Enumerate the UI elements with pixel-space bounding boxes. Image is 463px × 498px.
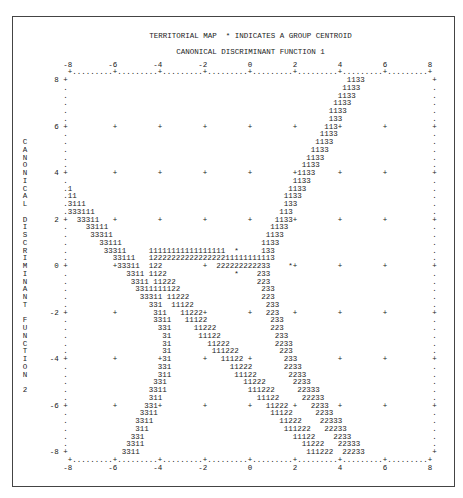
territorial-map: -8 -6 -4 -2 0 2 4 6 8 +.........+.......… [50, 62, 437, 473]
chart-title: TERRITORIAL MAP * INDICATES A GROUP CENT… [149, 32, 352, 40]
y-axis-title: C A N O N I C A L D I S C R I M I N A N … [23, 139, 28, 395]
x-axis-title: CANONICAL DISCRIMINANT FUNCTION 1 [176, 48, 325, 56]
x-tick-labels-bottom: -8 -6 -4 -2 0 2 4 6 8 [50, 465, 437, 473]
